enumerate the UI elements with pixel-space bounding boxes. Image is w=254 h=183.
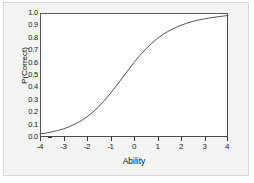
x-tick-label: 0 [124,142,144,151]
y-tick-label: 0.0 [16,133,38,141]
x-tick-label: 4 [217,142,237,151]
x-tick-mark [111,137,112,141]
x-tick-mark [181,137,182,141]
x-tick-mark [205,137,206,141]
x-axis: -4 -3 -2 -1 0 1 2 3 4 [40,137,228,157]
x-tick-label: 3 [195,142,215,151]
y-tick-label: 0.1 [16,121,38,129]
item-characteristic-curve [40,15,228,133]
x-tick-label: 2 [171,142,191,151]
x-tick-mark [134,137,135,141]
x-tick-mark [227,137,228,141]
y-axis-title: P(Correct) [20,28,29,104]
chart-figure: 1.0 0.9 0.8 0.7 0.6 0.5 0.4 0.3 0.2 0.1 … [0,0,254,183]
y-tick-label: 0.2 [16,108,38,116]
x-tick-label: -2 [77,142,97,151]
x-tick-label: -1 [101,142,121,151]
x-tick-mark [64,137,65,141]
x-tick-mark [40,137,41,141]
x-tick-label: 1 [148,142,168,151]
x-tick-mark [87,137,88,141]
x-axis-title: Ability [40,156,228,166]
x-tick-label: -3 [54,142,74,151]
x-tick-mark [158,137,159,141]
y-tick-label: 1.0 [16,9,38,17]
y-axis: 1.0 0.9 0.8 0.7 0.6 0.5 0.4 0.3 0.2 0.1 … [12,13,38,137]
x-tick-label: -4 [30,142,50,151]
curve-layer [40,13,228,137]
